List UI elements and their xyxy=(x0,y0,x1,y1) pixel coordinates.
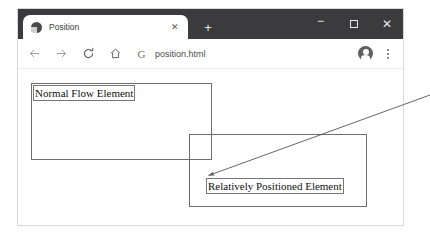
page-favicon-icon xyxy=(31,22,42,33)
account-avatar-icon[interactable] xyxy=(358,46,373,61)
page-viewport: Normal Flow Element Relatively Positione… xyxy=(18,69,403,225)
browser-window: Position ✕ + − ✕ xyxy=(17,8,404,226)
minimize-icon[interactable]: − xyxy=(304,9,337,39)
toolbar-right-group xyxy=(358,45,399,63)
browser-tab-position[interactable]: Position ✕ xyxy=(23,15,188,39)
address-bar-url: position.html xyxy=(155,49,206,59)
maximize-icon[interactable] xyxy=(337,9,370,39)
reload-icon[interactable] xyxy=(77,43,99,65)
browser-titlebar: Position ✕ + − ✕ xyxy=(18,9,403,39)
home-icon[interactable] xyxy=(104,43,126,65)
new-tab-button[interactable]: + xyxy=(200,19,216,35)
screenshot-stage: Position ✕ + − ✕ xyxy=(0,0,430,241)
close-window-icon[interactable]: ✕ xyxy=(370,9,403,39)
three-dot-menu-icon[interactable] xyxy=(381,45,395,63)
google-g-icon: G xyxy=(135,47,148,60)
normal-flow-element-box: Normal Flow Element xyxy=(31,83,212,160)
tab-title: Position xyxy=(49,22,167,32)
forward-arrow-icon[interactable] xyxy=(50,43,72,65)
address-bar[interactable]: G position.html xyxy=(135,47,358,60)
browser-toolbar: G position.html xyxy=(18,39,403,69)
normal-flow-element-label: Normal Flow Element xyxy=(33,85,135,101)
back-arrow-icon[interactable] xyxy=(23,43,45,65)
window-controls: − ✕ xyxy=(304,9,403,39)
relatively-positioned-element-label: Relatively Positioned Element xyxy=(206,178,344,194)
relatively-positioned-element-box: Relatively Positioned Element xyxy=(189,134,367,207)
maximize-square-glyph xyxy=(350,20,358,28)
close-tab-icon[interactable]: ✕ xyxy=(167,19,183,35)
